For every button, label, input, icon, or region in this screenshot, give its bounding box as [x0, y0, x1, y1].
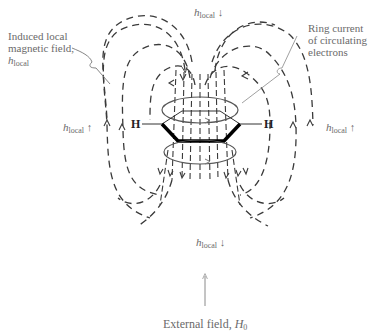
arrow-up-icon: ↑ [87, 121, 93, 133]
external-field-label: External field, H0 [163, 318, 247, 330]
h-local-top-label: hlocal ↓ [194, 6, 223, 18]
ring-current-diagram: hlocal ↓ Induced local magnetic field, h… [0, 0, 386, 332]
ring-current-leader [242, 36, 297, 103]
arrow-down-icon: ↓ [218, 6, 224, 18]
hydrogen-left: H [131, 117, 140, 132]
ring-current-label: Ring current of circulating electrons [308, 22, 367, 58]
h-local-left-label: hlocal ↑ [63, 121, 92, 133]
field-lines-right [205, 22, 313, 218]
h-local-right-label: hlocal ↑ [326, 121, 355, 133]
arrow-up-icon: ↑ [350, 121, 356, 133]
induced-field-label: Induced local magnetic field, hlocal [8, 30, 74, 66]
hydrogen-right: H [264, 117, 273, 132]
arrow-down-icon: ↓ [220, 236, 226, 248]
benzene-ring [142, 111, 262, 141]
field-lines-left [103, 16, 195, 218]
field-lines-bottom [118, 180, 284, 226]
h-local-bottom-label: hlocal ↓ [196, 236, 225, 248]
